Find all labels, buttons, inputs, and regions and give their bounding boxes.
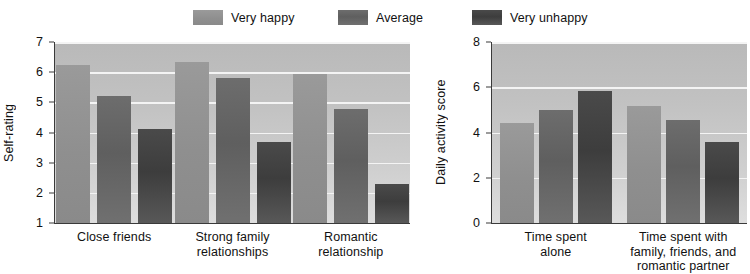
y-tick-label: 6 — [458, 80, 480, 94]
y-tick-label: 6 — [21, 65, 43, 79]
legend-label-very-unhappy: Very unhappy — [510, 11, 588, 25]
legend-label-very-happy: Very happy — [231, 11, 295, 25]
x-axis-category-label-line: relationships — [168, 245, 298, 260]
y-tick-label: 3 — [21, 156, 43, 170]
bar — [666, 120, 700, 223]
x-axis-category-label-line: family, friends, and — [616, 245, 750, 260]
x-axis-category-label-line: alone — [488, 245, 623, 260]
gridline — [55, 72, 410, 74]
x-axis-category-label-line: relationship — [286, 245, 416, 260]
y-axis-title-right: Daily activity score — [434, 42, 448, 223]
chart-legend: Very happy Average Very unhappy — [0, 0, 750, 34]
x-axis-category-label-line: Romantic — [286, 230, 416, 245]
x-axis-category-label-line: Strong family — [168, 230, 298, 245]
y-tick-label: 1 — [21, 216, 43, 230]
x-axis-category-label-line: Time spent with — [616, 230, 750, 245]
gridline — [492, 87, 747, 89]
x-axis-line-left — [54, 223, 410, 224]
x-axis-category-label: Time spentalone — [488, 230, 623, 259]
bar — [334, 109, 368, 223]
bar — [375, 184, 409, 223]
legend-label-average: Average — [376, 11, 423, 25]
y-axis-title-left: Self-rating — [2, 42, 16, 223]
plot-area-left — [55, 42, 410, 223]
x-axis-line-right — [491, 223, 747, 224]
bar — [138, 129, 172, 223]
legend-swatch-icon-average — [338, 10, 368, 25]
bar — [627, 106, 661, 223]
bar — [257, 142, 291, 223]
bar — [97, 96, 131, 223]
x-axis-category-label-line: Time spent — [488, 230, 623, 245]
gridline — [55, 42, 410, 44]
legend-item-very-happy: Very happy — [193, 10, 295, 25]
y-tick-label: 8 — [458, 35, 480, 49]
bar — [539, 110, 573, 223]
y-tick-label: 2 — [21, 186, 43, 200]
legend-swatch-icon-very-unhappy — [472, 10, 502, 25]
legend-swatch-icon-very-happy — [193, 10, 223, 25]
legend-item-average: Average — [338, 10, 423, 25]
gridline — [492, 42, 747, 44]
bar — [56, 65, 90, 223]
x-axis-category-label-line: romantic partner — [616, 259, 750, 274]
bar — [175, 62, 209, 223]
bar — [216, 78, 250, 223]
y-tick-label: 4 — [458, 126, 480, 140]
x-axis-category-label: Time spent withfamily, friends, androman… — [616, 230, 750, 274]
x-axis-category-label: Close friends — [49, 230, 179, 245]
bar — [578, 91, 612, 223]
y-tick-label: 5 — [21, 95, 43, 109]
y-tick-label: 0 — [458, 216, 480, 230]
y-tick-label: 2 — [458, 171, 480, 185]
bar — [293, 74, 327, 223]
x-axis-category-label: Strong familyrelationships — [168, 230, 298, 259]
plot-area-right — [492, 42, 747, 223]
bar — [705, 142, 739, 223]
y-tick-label: 4 — [21, 126, 43, 140]
bar — [500, 123, 534, 223]
x-axis-category-label-line: Close friends — [49, 230, 179, 245]
legend-item-very-unhappy: Very unhappy — [472, 10, 588, 25]
x-axis-category-label: Romanticrelationship — [286, 230, 416, 259]
y-tick-label: 7 — [21, 35, 43, 49]
